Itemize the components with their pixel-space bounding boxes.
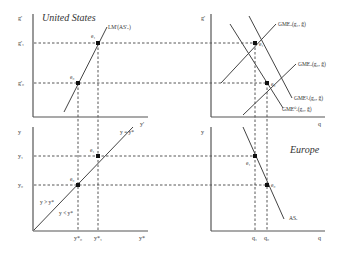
y-tick: g'₁ [18, 40, 24, 46]
x-axis-label: y' [140, 121, 144, 127]
lm-curve [64, 27, 107, 112]
x-axis-label: q [318, 121, 321, 127]
y-tick: y₀ [18, 182, 23, 188]
point-label: e₀ [271, 81, 275, 87]
y-axis-label: g' [18, 15, 22, 21]
point-e0 [76, 183, 80, 187]
curve-label: GME⁰ₑ(g₀, g̃) [282, 106, 312, 113]
curve-label: GMEᵤ(g₀, g̃) [298, 61, 326, 68]
diagonal-line [34, 127, 133, 230]
panel-title: United States [42, 12, 96, 23]
region-label: y < y* [59, 210, 73, 216]
curve-label: GME¹ₑ(g₀, g̃) [294, 95, 323, 102]
curve-label: LM'(AS'ᵤ) [108, 24, 131, 31]
y-tick: g'₀ [18, 80, 24, 86]
point-e1 [96, 41, 100, 45]
y-axis-label: y [201, 129, 204, 135]
y-axis-label: g' [201, 15, 205, 21]
curve-label: GMEᵤ(g₁, g̃) [278, 21, 306, 28]
panel-goods-market: g' q GMEᵤ(g₁, g̃) GMEᵤ(g₀, g̃) GME¹ₑ(g₀,… [201, 14, 326, 127]
x-tick: y*₀ [74, 235, 82, 241]
point-label: e₁ [90, 147, 94, 153]
point-e0 [76, 81, 80, 85]
point-label: e₁ [259, 41, 263, 47]
y-tick: y₁ [18, 153, 23, 159]
x-axis-label: q [318, 235, 321, 241]
y-axis-label: y [18, 129, 21, 135]
point-e0 [265, 183, 269, 187]
point-label: e₁ [246, 160, 250, 166]
panel-europe: y Europe q₁ q₀ q ASₑ e₁ e₀ [201, 127, 325, 241]
region-label: y > y* [40, 199, 54, 205]
point-label: e₀ [70, 74, 74, 80]
x-tick: q₁ [252, 235, 257, 241]
point-label: e₀ [70, 176, 74, 182]
point-e0 [265, 81, 269, 85]
point-label: e₁ [91, 33, 95, 39]
x-axis-label: y* [139, 235, 145, 241]
point-e1 [253, 41, 257, 45]
x-tick: q₀ [264, 235, 269, 241]
diagonal-label: y = y* [120, 129, 134, 135]
x-tick: y*₁ [94, 235, 102, 241]
panel-united-states: United States g' g'₁ g'₀ y' LM'(AS'ᵤ) e₁… [18, 12, 148, 127]
panel-title: Europe [289, 144, 320, 155]
panel-output-mapping: y y₁ y₀ y*₀ y*₁ y* y = y* y > y* y < y* … [18, 127, 148, 241]
four-panel-diagram: United States g' g'₁ g'₀ y' LM'(AS'ᵤ) e₁… [0, 0, 349, 255]
point-e1 [96, 154, 100, 158]
as-curve [243, 127, 284, 219]
point-e1 [253, 154, 257, 158]
curve-label: ASₑ [289, 215, 298, 221]
point-label: e₀ [271, 182, 275, 188]
